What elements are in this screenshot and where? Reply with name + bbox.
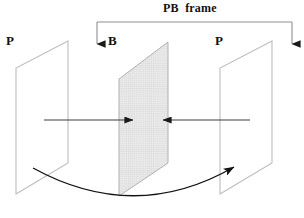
figure-title: PB frame: [163, 2, 217, 14]
figure-canvas: P B P PB frame: [0, 0, 304, 218]
plane-right-label: P: [215, 34, 223, 47]
bracket-pb-frame: [97, 22, 292, 44]
plane-left-label: P: [6, 34, 14, 47]
plane-middle-b: [119, 42, 168, 196]
diagram-svg: [0, 0, 304, 218]
plane-middle-label: B: [108, 34, 117, 47]
plane-left-p: [16, 41, 68, 194]
